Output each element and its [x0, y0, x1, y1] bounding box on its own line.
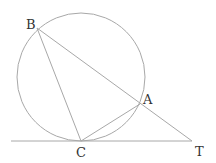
label-b: B	[26, 17, 36, 32]
chord-bc	[37, 28, 81, 141]
label-t: T	[195, 144, 204, 159]
chord-ca	[81, 104, 140, 141]
secant-line-bt	[37, 28, 192, 141]
geometry-diagram: B A C T	[0, 0, 216, 163]
label-a: A	[142, 92, 153, 107]
label-c: C	[76, 145, 86, 160]
circle	[17, 13, 145, 141]
